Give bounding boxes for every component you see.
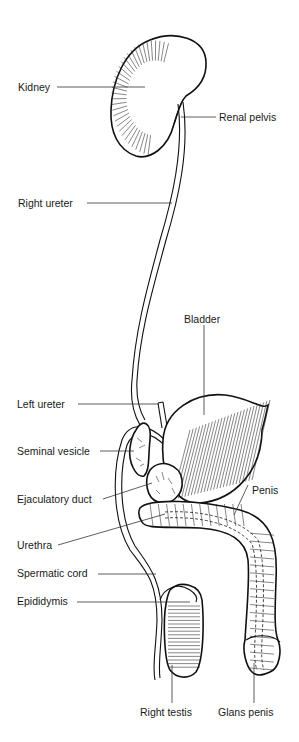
label-glans-penis: Glans penis bbox=[218, 706, 273, 718]
leader-ejaculatory-duct bbox=[103, 483, 152, 499]
kidney bbox=[111, 36, 206, 157]
label-urethra: Urethra bbox=[17, 539, 52, 551]
testis bbox=[160, 585, 203, 678]
label-spermatic-cord: Spermatic cord bbox=[17, 567, 88, 579]
label-right-testis: Right testis bbox=[140, 706, 192, 718]
label-renal-pelvis: Renal pelvis bbox=[219, 111, 276, 123]
urogenital-diagram: Kidney Renal pelvis Right ureter Bladder… bbox=[0, 0, 299, 742]
label-epididymis: Epididymis bbox=[17, 595, 68, 607]
label-penis: Penis bbox=[252, 484, 278, 496]
label-ejaculatory-duct: Ejaculatory duct bbox=[17, 493, 92, 505]
label-bladder: Bladder bbox=[184, 313, 221, 325]
label-left-ureter: Left ureter bbox=[17, 398, 65, 410]
label-right-ureter: Right ureter bbox=[18, 197, 73, 209]
left-ureter bbox=[158, 402, 167, 428]
leader-urethra bbox=[58, 514, 165, 545]
label-kidney: Kidney bbox=[18, 81, 51, 93]
label-seminal-vesicle: Seminal vesicle bbox=[17, 445, 90, 457]
seminal-vesicle bbox=[130, 423, 151, 476]
